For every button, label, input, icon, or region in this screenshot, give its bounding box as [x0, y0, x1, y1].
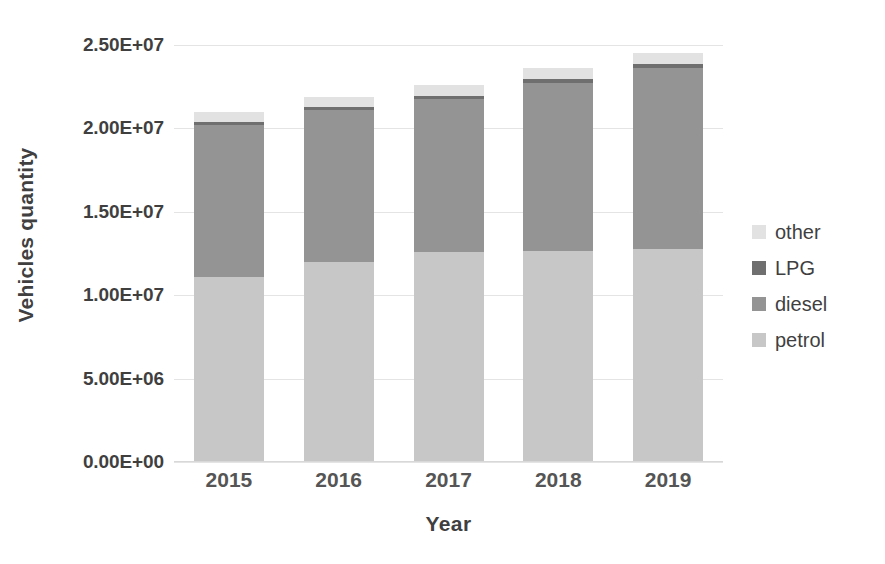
bar-stack[interactable] [304, 97, 374, 462]
bar-segment-other[interactable] [414, 85, 484, 96]
y-axis-tick-label: 2.00E+07 [83, 117, 164, 139]
y-axis-tick-label: 1.50E+07 [83, 201, 164, 223]
bar-segment-other[interactable] [194, 112, 264, 122]
x-axis-tick-labels: 20152016201720182019 [174, 468, 723, 502]
bar-segment-petrol[interactable] [414, 252, 484, 462]
y-axis-title-label: Vehicles quantity [14, 148, 38, 323]
bar-segment-other[interactable] [304, 97, 374, 107]
bar-segment-diesel[interactable] [523, 83, 593, 251]
bar-stack[interactable] [633, 53, 703, 462]
legend-swatch-other [752, 225, 766, 239]
x-axis-tick-label: 2017 [394, 468, 504, 492]
y-axis-tick-label: 2.50E+07 [83, 34, 164, 56]
y-axis-title: Vehicles quantity [0, 0, 52, 470]
legend-swatch-lpg [752, 261, 766, 275]
y-axis-tick-label: 5.00E+06 [83, 368, 164, 390]
gridline [174, 462, 723, 463]
legend-item-label: diesel [775, 293, 827, 316]
x-axis-tick-label: 2016 [284, 468, 394, 492]
x-axis-title: Year [174, 512, 723, 536]
y-axis-tick-label: 0.00E+00 [83, 451, 164, 473]
y-axis-tick-label: 1.00E+07 [83, 284, 164, 306]
legend-item-petrol[interactable]: petrol [752, 322, 882, 358]
bars-layer [174, 45, 723, 462]
bar-segment-diesel[interactable] [633, 68, 703, 249]
bar-segment-diesel[interactable] [304, 110, 374, 262]
bar-segment-other[interactable] [633, 53, 703, 64]
bar-stack[interactable] [414, 85, 484, 462]
bar-segment-diesel[interactable] [194, 125, 264, 277]
plot-area [174, 45, 723, 462]
legend-item-label: petrol [775, 329, 825, 352]
legend-item-lpg[interactable]: LPG [752, 250, 882, 286]
bar-segment-diesel[interactable] [414, 99, 484, 252]
bar-segment-petrol[interactable] [523, 251, 593, 462]
bar-segment-petrol[interactable] [633, 249, 703, 463]
legend-swatch-diesel [752, 297, 766, 311]
legend-item-label: LPG [775, 257, 815, 280]
bar-segment-other[interactable] [523, 68, 593, 79]
chart-legend: otherLPGdieselpetrol [752, 214, 882, 358]
stacked-bar-chart: Vehicles quantity 0.00E+005.00E+061.00E+… [0, 0, 885, 564]
legend-item-diesel[interactable]: diesel [752, 286, 882, 322]
legend-item-label: other [775, 221, 821, 244]
legend-swatch-petrol [752, 333, 766, 347]
x-axis-tick-label: 2019 [613, 468, 723, 492]
x-axis-tick-label: 2015 [174, 468, 284, 492]
legend-item-other[interactable]: other [752, 214, 882, 250]
x-axis-tick-label: 2018 [503, 468, 613, 492]
x-axis-line [174, 461, 723, 462]
bar-segment-petrol[interactable] [304, 262, 374, 462]
bar-stack[interactable] [523, 68, 593, 462]
bar-stack[interactable] [194, 112, 264, 462]
y-axis-tick-labels: 0.00E+005.00E+061.00E+071.50E+072.00E+07… [52, 0, 174, 480]
bar-segment-petrol[interactable] [194, 277, 264, 462]
